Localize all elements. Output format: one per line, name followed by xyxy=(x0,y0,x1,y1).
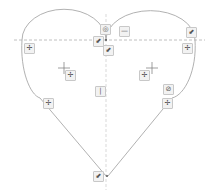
horizontal-constraint-icon[interactable]: — xyxy=(119,26,130,37)
vertical-constraint-icon[interactable]: | xyxy=(95,86,106,97)
concentric-constraint-icon[interactable]: ◎ xyxy=(100,24,111,35)
coincident-constraint-icon[interactable]: ⬋ xyxy=(93,171,104,182)
tangent-constraint-icon[interactable]: ✢ xyxy=(24,43,35,54)
tangent-constraint-icon[interactable]: ⊘ xyxy=(163,84,174,95)
coincident-constraint-icon[interactable]: ⬋ xyxy=(186,27,197,38)
tangent-constraint-icon[interactable]: ✢ xyxy=(65,70,76,81)
bottom-point xyxy=(106,175,108,177)
sketch-canvas[interactable]: ◎ — ⬋ ⬋ ⬋ ✢ ✢ ✢ ✢ | ⊘ ✢ ✢ ⬋ xyxy=(0,0,211,194)
coincident-constraint-icon[interactable]: ⬋ xyxy=(103,45,114,56)
tangent-constraint-icon[interactable]: ✢ xyxy=(162,98,173,109)
right-side xyxy=(108,40,195,176)
tangent-constraint-icon[interactable]: ✢ xyxy=(139,70,150,81)
tangent-constraint-icon[interactable]: ✢ xyxy=(43,98,54,109)
origin-point xyxy=(105,39,107,41)
left-side xyxy=(22,40,106,176)
tangent-constraint-icon[interactable]: ✢ xyxy=(182,43,193,54)
